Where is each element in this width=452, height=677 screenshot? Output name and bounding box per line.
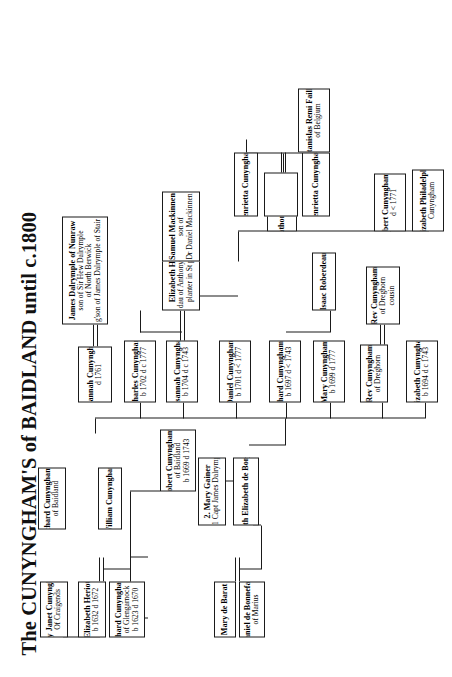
connector-stub-elizabeth	[382, 402, 383, 418]
node-judith-elizabeth-de-bonnefant[interactable]: 1. Judith Elizabeth de Bonnefant	[233, 457, 259, 525]
node-detail: b 1701 d < 1777	[235, 346, 244, 396]
genealogy-chart: The CUNYNGHAM'S of BAIDLAND until c.1800	[0, 0, 452, 677]
node-name: Mary de Barat	[220, 583, 229, 634]
node-charles-cunyngham[interactable]: Charles Cunyngham b 1702 d c 1777	[124, 340, 156, 402]
connector-richard1-down	[103, 568, 130, 569]
marriage-line-susannah-dalrymple	[93, 324, 94, 346]
node-mary-gainer[interactable]: 2. Mary Gainer m 1 Capt James Dalrymple	[198, 457, 226, 525]
node-stanislas-remi-faille[interactable]: Stanislas Remi Faille of Belgium	[298, 88, 330, 152]
node-name: Isaac Roberdeau	[319, 252, 328, 310]
connector-stub-charles	[140, 402, 141, 418]
node-henrietta-cunyngham-top[interactable]: Henrietta Cunyngham	[234, 152, 258, 216]
node-richard-cunyngham-i[interactable]: Richard Cunyngham I of Glengarnock b 162…	[109, 581, 145, 637]
node-susannah-cunyngham-b1704[interactable]: Susannah Cunyngham b 1704 d c 1743	[166, 340, 198, 402]
node-william-cunyngham[interactable]: William Cunyngham	[98, 467, 122, 529]
connector-to-robert1	[130, 490, 160, 491]
node-name: 1. Judith Elizabeth de Bonnefant	[241, 457, 250, 525]
connector-charles-hodge-h	[140, 310, 141, 332]
marriage-line-elizabeth-rev	[380, 324, 381, 346]
node-daniel-cunyngham[interactable]: Daniel Cunyngham b 1701 d < 1777	[219, 340, 251, 402]
marriage-line-susannah-dalrymple-2	[97, 324, 98, 346]
connector-stub-mary	[330, 402, 331, 418]
connector-stub-bottom	[425, 402, 426, 418]
node-henrietta-cunyngham-2[interactable]: Henrietta Cunyngham	[302, 152, 330, 216]
node-james-dalrymple-of-nunraw[interactable]: James Dalrymple of Nunraw son of Sir Hew…	[62, 216, 108, 324]
connector-stub-daniel	[236, 402, 237, 418]
node-lady-janet-cunyngham[interactable]: Lady Janet Cunyngham Of Craigends	[40, 581, 68, 637]
node-elizabeth-philadelphia-cunyngham[interactable]: Elizabeth Philadelphia Cunyngham	[412, 169, 444, 231]
connector-charles-hodge-v	[140, 331, 182, 332]
node-detail: m 1 Capt James Dalrymple	[212, 457, 221, 525]
node-susannah-cunyngham-d1761[interactable]: Susannah Cunyngham d 1761	[78, 346, 112, 402]
node-rev-cunyngham-cousin[interactable]: Rev Cunyngham of Dreghorn cousin	[366, 266, 400, 324]
connector-robert1-children-v	[249, 444, 285, 445]
node-elizabeth-heriot[interactable]: Elizabeth Heriot b 1632 d 1672	[78, 581, 106, 637]
node-detail: b 1632 d 1672	[92, 587, 101, 631]
connector-stub-richard3	[286, 402, 287, 418]
marriage-line-bonnefant-barat	[235, 557, 236, 581]
node-name: Henrietta Cunyngham	[311, 152, 320, 216]
node-detail: b 1702 d c 1777	[140, 347, 149, 396]
node-samuel-mackinnen[interactable]: Samuel Mackinnen son of Dr Daniel Mackin…	[162, 191, 200, 261]
connector-to-william	[130, 556, 148, 557]
node-detail: d 1761	[95, 364, 104, 385]
node-name: Henrietta Cunyngham	[241, 152, 250, 216]
node-elizabeth-cunyngham[interactable]: Elizabeth Cunyngham b 1694 d c 1743	[406, 340, 438, 402]
connector-richard3-mary-h	[330, 310, 331, 332]
node-detail: Cunyngham	[428, 181, 437, 218]
marriage-line-richard1-elizabeth	[99, 557, 100, 581]
node-mary-de-barat[interactable]: Mary de Barat	[214, 581, 236, 637]
connector-richard3-mary-v	[286, 331, 330, 332]
node-detail: b 1697 d < 1743	[285, 346, 294, 396]
page-title: The CUNYNGHAM'S of BAIDLAND until c.1800	[18, 211, 41, 655]
node-isaac-roberdeau[interactable]: Isaac Roberdeau	[312, 252, 336, 310]
node-daniel-de-bonnefant[interactable]: Daniel de Bonnefant of Marius	[239, 581, 265, 637]
marriage-line-elizabeth-rev-2	[384, 324, 385, 346]
node-robert-cunyngham-ii[interactable]: Robert Cunyngham II d < 1771	[374, 173, 406, 231]
connector-robert-to-spine	[285, 418, 286, 445]
node-detail: b 1694 d c 1743	[422, 347, 431, 396]
node-robert-cunyngham-i[interactable]: Robert Cunyngham I of Baidland b 1669 d …	[160, 429, 196, 491]
node-rev-cunyngham-of-dreghorn[interactable]: Rev Cunyngham of Dreghorn	[360, 344, 388, 402]
node-name: William Cunyngham	[105, 467, 114, 529]
connector-daniel-to-anthony	[238, 231, 239, 261]
node-richard-cunyngham-iii[interactable]: Richard Cunyngham III b 1697 d < 1743	[269, 340, 301, 402]
node-detail: d < 1771	[390, 188, 399, 215]
node-detail: of Belgium	[314, 103, 323, 137]
node-detail: cousin	[388, 285, 397, 305]
node-detail: b 1699 d 1777	[329, 349, 338, 393]
marriage-line-anthony-2	[285, 152, 286, 174]
node-mary-cunyngham[interactable]: Mary Cunyngham b 1699 d 1777	[313, 340, 345, 402]
node-detail: b 1669 d 1743	[183, 438, 192, 482]
connector-anthony-stem	[283, 153, 284, 174]
node-blank[interactable]	[264, 172, 298, 216]
node-detail: b 1704 d c 1743	[182, 347, 191, 396]
node-detail: b 1623 d 1670	[132, 587, 141, 631]
node-detail: Dr Daniel Mackinnen	[186, 193, 195, 259]
connector-children-spine	[95, 417, 425, 418]
node-detail: of Baidland	[52, 480, 61, 516]
connector-bonnefant-down	[239, 568, 261, 569]
node-richard-cunyngham-ii[interactable]: Richard Cunyngham II of Baidland	[38, 467, 66, 529]
connector-stub-susannah1761	[95, 418, 96, 433]
node-detail: g'son of James Dalrymple of Stair	[94, 218, 103, 321]
node-detail: of Dreghorn	[374, 354, 383, 391]
chart-canvas: The CUNYNGHAM'S of BAIDLAND until c.1800	[0, 0, 452, 677]
node-detail: Of Craigends	[54, 589, 63, 630]
connector-bonnefant-to-judith	[261, 525, 262, 569]
connector-stub-susannah1704	[183, 402, 184, 418]
marriage-line-anthony	[281, 152, 282, 174]
node-detail: of Marius	[252, 594, 261, 624]
connector-anthony-kid-henrietta	[246, 139, 247, 153]
